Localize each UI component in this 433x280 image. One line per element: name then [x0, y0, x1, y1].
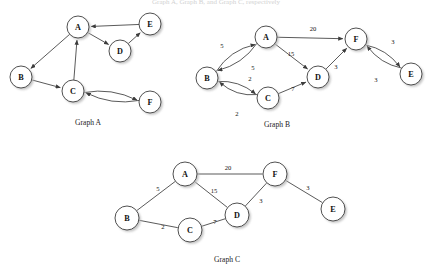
node-label-graph-c-B: B	[124, 214, 130, 223]
edge-graph-a-E-A	[91, 24, 139, 26]
caption-graph-c: Graph C	[214, 255, 240, 264]
edge-weight-graph-c-D-F: 3	[259, 197, 263, 204]
edge-weight-graph-c-F-E: 3	[306, 184, 310, 191]
edge-graph-a-A-D	[88, 32, 109, 44]
edge-weight-graph-b-B-C: 2	[248, 75, 251, 82]
edge-graph-c-F-E	[285, 180, 322, 202]
edge-weight-graph-b-C-B: 2	[235, 110, 238, 117]
edge-weight-graph-b-C-D: 7	[291, 85, 295, 92]
node-label-graph-b-E: E	[408, 70, 414, 79]
edge-graph-c-B-C	[139, 220, 178, 227]
edge-weight-graph-c-B-C: 2	[161, 223, 164, 230]
graph-figure: ABCDEFGraph A552015227333ABCDEFGraph B20…	[0, 0, 433, 280]
node-label-graph-c-D: D	[234, 211, 240, 220]
node-label-graph-b-B: B	[204, 74, 210, 83]
edge-graph-b-E-F	[367, 46, 402, 68]
node-label-graph-a-E: E	[147, 20, 153, 29]
node-label-graph-c-A: A	[182, 170, 188, 179]
edge-weight-graph-c-A-D: 15	[211, 187, 218, 194]
edge-graph-a-C-A	[74, 40, 77, 80]
edge-weight-graph-b-E-F: 3	[374, 76, 378, 83]
node-label-graph-b-C: C	[265, 94, 271, 103]
node-label-graph-c-C: C	[187, 226, 193, 235]
top-clipped-caption: Graph A, Graph B, and Graph C, respectiv…	[152, 0, 280, 6]
node-label-graph-c-F: F	[272, 170, 277, 179]
edge-weight-graph-c-A-B: 5	[156, 185, 160, 192]
edge-graph-b-F-E	[365, 45, 400, 67]
graph-canvas: ABCDEFGraph A552015227333ABCDEFGraph B20…	[0, 0, 433, 280]
node-label-graph-a-C: C	[70, 87, 76, 96]
edge-weight-graph-b-A-B: 5	[251, 64, 255, 71]
node-label-graph-a-D: D	[117, 47, 123, 56]
labels-layer: ABCDEFGraph A552015227333ABCDEFGraph B20…	[18, 20, 414, 264]
edge-graph-a-D-E	[128, 33, 140, 44]
edge-graph-c-D-F	[245, 183, 266, 206]
caption-graph-a: Graph A	[75, 118, 101, 127]
edge-graph-c-A-D	[194, 181, 227, 207]
edge-weight-graph-b-D-F: 3	[334, 63, 338, 70]
edge-weight-graph-b-F-E: 3	[391, 38, 395, 45]
edge-weight-graph-c-A-F: 20	[225, 164, 232, 171]
node-label-graph-a-F: F	[147, 98, 152, 107]
edge-weight-graph-b-A-F: 20	[310, 25, 317, 32]
edge-graph-a-B-C	[32, 80, 61, 88]
edge-graph-b-B-A	[216, 45, 255, 72]
edge-graph-a-A-B	[31, 34, 70, 68]
node-label-graph-b-A: A	[263, 33, 269, 42]
edge-weight-graph-b-A-D: 15	[288, 50, 295, 57]
node-label-graph-c-E: E	[330, 205, 336, 214]
edge-weight-graph-b-B-A: 5	[220, 42, 224, 49]
edge-graph-b-A-F	[277, 37, 343, 38]
node-label-graph-b-D: D	[315, 73, 321, 82]
node-label-graph-a-A: A	[75, 23, 81, 32]
node-label-graph-b-F: F	[353, 35, 358, 44]
nodes-layer	[10, 13, 424, 244]
node-label-graph-a-B: B	[18, 73, 24, 82]
edge-weight-graph-c-C-D: 7	[213, 218, 217, 225]
caption-graph-b: Graph B	[264, 120, 290, 129]
